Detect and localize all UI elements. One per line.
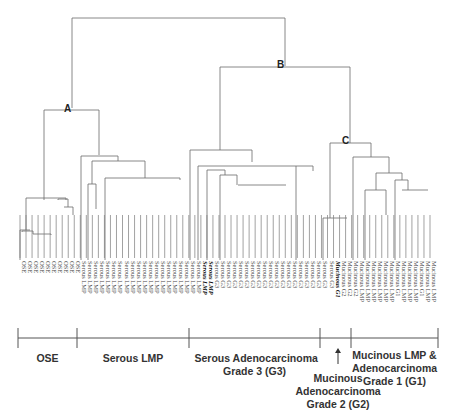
leaf-label: Mucinous LMP <box>359 261 366 302</box>
leaf-label: OSE <box>75 261 82 273</box>
leaf-label: Serous LMP <box>136 261 143 294</box>
leaf-label: Serous G3 <box>322 261 329 288</box>
group-label-mucinous-lmp-g1: Mucinous LMP &AdenocarcinomaGrade 1 (G1) <box>335 349 454 388</box>
leaf-label: Serous G3 <box>298 261 305 288</box>
leaf-label: Mucinous LMP <box>425 261 432 302</box>
leaf-label: Mucinous G2 <box>353 261 360 297</box>
leaf-label: Serous G3 <box>250 261 257 288</box>
leaf-label: Serous LMP <box>184 261 191 294</box>
leaf-label: Serous LMP <box>99 261 106 294</box>
leaf-label: Serous LMP <box>178 261 185 294</box>
leaf-label: Serous G3 <box>238 261 245 288</box>
leaf-label: Serous G3 <box>214 261 221 288</box>
leaf-label: Serous G3 <box>329 261 336 288</box>
leaf-label: Serous G3 <box>226 261 233 288</box>
leaf-label: Mucinous LMP <box>371 261 378 302</box>
leaf-label: Serous G3 <box>316 261 323 288</box>
leaf-label: Mucinous G2 <box>347 261 354 297</box>
leaf-label: Serous LMP <box>105 261 112 294</box>
group-axis <box>18 328 438 348</box>
leaf-label: Mucinous LMP <box>365 261 372 302</box>
leaf-labels: OSEOSEOSEOSEOSEOSEOSEOSEOSEOSESerous LMP… <box>21 260 438 302</box>
leaf-label: Serous LMP <box>87 261 94 294</box>
leaf-label: Serous LMP <box>190 261 197 294</box>
leaf-label: Serous LMP <box>93 261 100 294</box>
leaf-label: Mucinous G1 <box>395 261 402 297</box>
leaf-label: Serous LMP <box>160 261 167 294</box>
leaf-label: Serous G3 <box>304 261 311 288</box>
leaf-label: Serous LMP <box>166 261 173 294</box>
leaf-label: Mucinous LMP <box>389 261 396 302</box>
dendrogram-tree <box>20 18 428 260</box>
leaf-label: Serous G3 <box>256 261 263 288</box>
node-label-b: B <box>277 59 284 70</box>
leaf-label: OSE <box>27 261 34 273</box>
leaf-label: Serous LMP <box>196 261 203 294</box>
leaf-label: Serous LMP <box>202 261 209 296</box>
leaf-label: Mucinous G2 <box>341 261 348 297</box>
leaf-label: Serous LMP <box>154 261 161 294</box>
node-label-c: C <box>342 135 349 146</box>
leaf-label: Serous LMP <box>111 261 118 294</box>
group-label-serous-lmp: Serous LMP <box>73 352 193 365</box>
leaf-label: Serous LMP <box>130 261 137 294</box>
node-label-a: A <box>64 103 71 114</box>
leaf-lines <box>20 215 430 258</box>
leaf-label: Serous LMP <box>148 261 155 294</box>
leaf-label: OSE <box>69 261 76 273</box>
leaf-label: Serous G3 <box>310 261 317 288</box>
leaf-label: Serous LMP <box>208 261 215 296</box>
leaf-label: Serous G3 <box>274 261 281 288</box>
leaf-label: OSE <box>33 261 40 273</box>
leaf-label: OSE <box>21 261 28 273</box>
leaf-label: OSE <box>63 261 70 273</box>
leaf-label: Serous LMP <box>142 261 149 294</box>
leaf-label: Serous G3 <box>286 261 293 288</box>
leaf-label: Serous G3 <box>232 261 239 288</box>
leaf-label: OSE <box>51 261 58 273</box>
leaf-label: Serous G3 <box>268 261 275 288</box>
leaf-label: Mucinous G1 <box>335 260 342 298</box>
leaf-label: Mucinous LMP <box>401 261 408 302</box>
leaf-label: Serous G3 <box>244 261 251 288</box>
leaf-label: Serous G3 <box>292 261 299 288</box>
leaf-label: OSE <box>57 261 64 273</box>
leaf-label: Mucinous LMP <box>383 261 390 302</box>
leaf-label: Serous LMP <box>172 261 179 294</box>
leaf-label: Serous G3 <box>262 261 269 288</box>
leaf-label: Serous LMP <box>117 261 124 294</box>
node-labels: A B C <box>64 59 349 146</box>
leaf-label: Mucinous LMP <box>377 261 384 302</box>
leaf-label: OSE <box>39 261 46 273</box>
leaf-label: Mucinous LMP <box>407 261 414 302</box>
leaf-label: Serous LMP <box>81 261 88 294</box>
leaf-label: Mucinous LMP <box>413 261 420 302</box>
leaf-label: Serous LMP <box>124 261 131 294</box>
leaf-label: Mucinous LMP <box>431 261 438 302</box>
leaf-label: Mucinous G1 <box>419 261 426 297</box>
leaf-label: Serous G3 <box>280 261 287 288</box>
leaf-label: OSE <box>45 261 52 273</box>
leaf-label: Serous G3 <box>220 261 227 288</box>
